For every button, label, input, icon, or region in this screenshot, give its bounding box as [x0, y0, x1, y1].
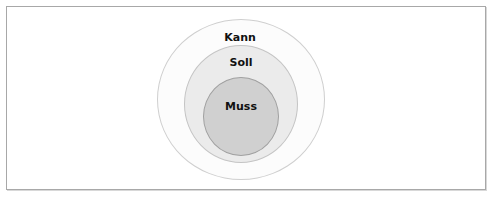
label-soll: Soll [201, 56, 281, 69]
label-kann: Kann [200, 31, 280, 44]
label-muss: Muss [201, 100, 281, 113]
inner-circle-muss [203, 77, 279, 156]
